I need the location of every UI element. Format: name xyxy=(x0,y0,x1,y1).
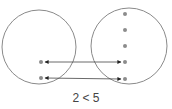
left-set-circle xyxy=(2,10,76,84)
right-dot-4 xyxy=(123,60,127,64)
comparison-caption: 2 < 5 xyxy=(0,91,172,105)
right-dot-3 xyxy=(123,44,127,48)
right-dot-5 xyxy=(123,77,127,81)
right-dot-1 xyxy=(123,12,127,16)
right-set-circle xyxy=(91,8,167,84)
left-dot-2 xyxy=(39,76,43,80)
right-dot-2 xyxy=(123,28,127,32)
left-dot-1 xyxy=(39,60,43,64)
